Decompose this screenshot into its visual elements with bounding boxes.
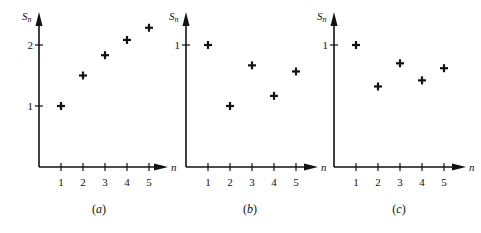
y-axis-label: Sn: [317, 10, 327, 24]
x-tick-label: 1: [58, 176, 64, 188]
y-axis-arrow-icon: [331, 12, 338, 26]
data-point-plus-icon: [270, 92, 278, 100]
x-axis-arrow-icon: [154, 164, 168, 171]
x-tick-label: 2: [227, 176, 233, 188]
y-tick-label: 1: [323, 39, 329, 51]
x-tick-label: 1: [353, 176, 359, 188]
x-tick-label: 5: [146, 176, 152, 188]
data-point-plus-icon: [292, 67, 300, 75]
x-axis-arrow-icon: [452, 164, 466, 171]
x-tick-label: 1: [205, 176, 211, 188]
panel-b: Snn123451: [169, 10, 327, 188]
x-tick-label: 4: [124, 176, 130, 188]
caption-a: (a): [92, 202, 106, 217]
caption-c: (c): [392, 202, 405, 217]
y-tick-label: 2: [28, 39, 34, 51]
plot-canvas: Snn1234512Snn123451Snn123451: [0, 0, 481, 233]
data-point-plus-icon: [101, 51, 109, 59]
x-tick-label: 5: [441, 176, 447, 188]
x-tick-label: 2: [375, 176, 381, 188]
x-axis-label: n: [171, 161, 177, 173]
data-point-plus-icon: [248, 61, 256, 69]
data-point-plus-icon: [374, 82, 382, 90]
x-axis-arrow-icon: [304, 164, 318, 171]
x-tick-label: 3: [102, 176, 108, 188]
data-point-plus-icon: [145, 24, 153, 32]
x-axis-label: n: [469, 161, 475, 173]
y-axis-label-subscript: n: [175, 15, 179, 24]
x-tick-label: 3: [249, 176, 255, 188]
x-axis-label: n: [321, 161, 327, 173]
data-point-plus-icon: [79, 72, 87, 80]
y-axis-label-subscript: n: [323, 15, 327, 24]
x-tick-label: 5: [293, 176, 299, 188]
data-point-plus-icon: [418, 76, 426, 84]
data-point-plus-icon: [204, 41, 212, 49]
panel-a: Snn1234512: [22, 10, 177, 188]
data-point-plus-icon: [396, 59, 404, 67]
data-point-plus-icon: [123, 36, 131, 44]
figure-three-panel-scatter: Snn1234512Snn123451Snn123451 (a) (b) (c): [0, 0, 481, 233]
x-tick-label: 4: [419, 176, 425, 188]
data-point-plus-icon: [352, 41, 360, 49]
y-axis-arrow-icon: [183, 12, 190, 26]
y-axis-label: Sn: [169, 10, 179, 24]
caption-a-letter: a: [96, 202, 102, 216]
x-tick-label: 2: [80, 176, 86, 188]
caption-b-letter: b: [247, 202, 253, 216]
y-tick-label: 1: [175, 39, 181, 51]
caption-c-letter: c: [396, 202, 401, 216]
y-axis-arrow-icon: [36, 12, 43, 26]
x-tick-label: 4: [271, 176, 277, 188]
y-axis-label-subscript: n: [28, 15, 32, 24]
y-tick-label: 1: [28, 100, 34, 112]
x-tick-label: 3: [397, 176, 403, 188]
y-axis-label: Sn: [22, 10, 32, 24]
caption-b: (b): [243, 202, 257, 217]
data-point-plus-icon: [226, 102, 234, 110]
data-point-plus-icon: [440, 64, 448, 72]
panel-c: Snn123451: [317, 10, 475, 188]
data-point-plus-icon: [57, 102, 65, 110]
